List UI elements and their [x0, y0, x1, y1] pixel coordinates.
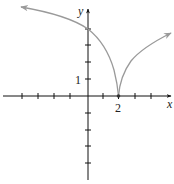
function-graph: y x 2 1 — [0, 0, 174, 184]
x-tick-label-2: 2 — [115, 101, 121, 115]
curve-left-branch — [21, 7, 119, 96]
x-axis-label: x — [166, 97, 173, 111]
y-axis-label: y — [77, 4, 84, 18]
y-tick-label-1: 1 — [75, 73, 81, 87]
curve-right-branch — [119, 33, 172, 96]
axes — [3, 9, 171, 180]
cusp-point — [117, 94, 121, 98]
